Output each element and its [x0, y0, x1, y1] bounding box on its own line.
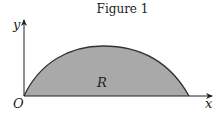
y-axis-label: y [12, 17, 21, 32]
figure-diagram: y x O R [0, 0, 221, 114]
region-label: R [96, 75, 107, 90]
x-axis-label: x [205, 96, 213, 111]
origin-label: O [13, 96, 24, 111]
